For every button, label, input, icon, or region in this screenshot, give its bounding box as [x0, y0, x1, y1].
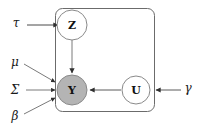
param-label-gamma: γ: [184, 81, 192, 95]
node-z-label: Z: [68, 19, 76, 32]
param-label-sigma: Σ: [10, 83, 20, 97]
param-label-tau: τ: [13, 16, 20, 30]
diagram-canvas: Z Y U τ μ Σ β γ: [0, 0, 201, 129]
param-label-beta: β: [11, 109, 19, 123]
edge-mu-to-y: [24, 64, 55, 82]
graphical-model-svg: Z Y U τ μ Σ β γ: [0, 0, 201, 129]
edge-beta-to-y: [24, 98, 55, 114]
param-label-mu: μ: [11, 55, 19, 69]
node-u-label: U: [131, 84, 141, 97]
node-y-label: Y: [67, 84, 76, 97]
